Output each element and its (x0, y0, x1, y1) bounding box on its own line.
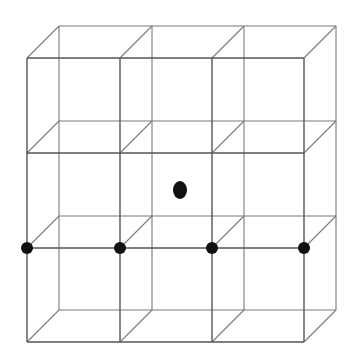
depth-edge (212, 216, 244, 248)
lattice-points (21, 181, 310, 254)
depth-edge (120, 121, 152, 153)
depth-edge (304, 216, 336, 248)
depth-edge (27, 216, 59, 248)
front-face-grid (27, 58, 304, 342)
depth-edge (212, 310, 244, 342)
depth-edge (27, 26, 59, 58)
depth-edge (304, 121, 336, 153)
depth-edge (304, 26, 336, 58)
depth-edge (304, 310, 336, 342)
depth-edge (27, 310, 59, 342)
lattice-point-3-dot (206, 242, 218, 254)
lattice-point-2-dot (114, 242, 126, 254)
center-point-dot (173, 181, 187, 199)
cubic-lattice-diagram (0, 0, 353, 359)
lattice-point-1-dot (21, 242, 33, 254)
depth-edge (120, 216, 152, 248)
depth-edge (27, 121, 59, 153)
back-face-grid (59, 26, 336, 310)
depth-edge (212, 121, 244, 153)
depth-edge (120, 310, 152, 342)
lattice-point-4-dot (298, 242, 310, 254)
depth-edge (120, 26, 152, 58)
lattice-svg (0, 0, 353, 359)
depth-edge (212, 26, 244, 58)
